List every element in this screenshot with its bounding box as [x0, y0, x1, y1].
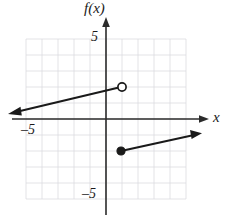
x-tick-label-negative-5: –5	[21, 123, 35, 137]
y-axis	[102, 17, 110, 215]
x-axis	[9, 115, 209, 123]
y-tick-label-positive-5: 5	[91, 30, 98, 44]
y-tick-label-negative-5: –5	[82, 187, 96, 201]
lower-branch-arrow-right	[190, 130, 202, 139]
open-circle-endpoint	[118, 83, 126, 91]
x-axis-arrow-right	[199, 115, 209, 123]
upper-branch-segment	[8, 87, 121, 116]
coordinate-plane-svg	[0, 0, 230, 221]
function-graph-figure: f(x) x 5 –5 –5	[0, 0, 230, 221]
upper-branch-arrow-left	[8, 107, 22, 116]
y-axis-arrow-up	[102, 17, 110, 27]
closed-circle-endpoint	[117, 147, 125, 155]
lower-branch-segment	[121, 130, 202, 151]
y-axis-label: f(x)	[84, 1, 105, 16]
x-axis-label: x	[213, 110, 220, 125]
